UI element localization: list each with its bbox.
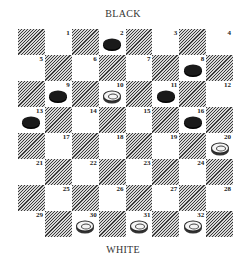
square-dark	[126, 29, 153, 55]
square-dark	[206, 107, 233, 133]
square-number: 17	[63, 134, 70, 141]
square-23[interactable]: 23	[126, 159, 153, 185]
square-18[interactable]: 18	[99, 133, 126, 159]
black-checker-piece[interactable]	[103, 38, 121, 49]
square-dark	[179, 29, 206, 55]
black-checker-piece[interactable]	[184, 64, 202, 75]
white-checker-piece[interactable]	[211, 142, 229, 153]
square-28[interactable]: 28	[206, 185, 233, 211]
square-dark	[45, 55, 72, 81]
square-number: 12	[224, 82, 231, 89]
square-dark	[206, 55, 233, 81]
white-checker-piece[interactable]	[184, 220, 202, 231]
square-dark	[18, 133, 45, 159]
square-11[interactable]: 11	[152, 81, 179, 107]
square-9[interactable]: 9	[45, 81, 72, 107]
square-number: 23	[143, 160, 150, 167]
square-22[interactable]: 22	[72, 159, 99, 185]
square-number: 16	[197, 108, 204, 115]
square-4[interactable]: 4	[206, 29, 233, 55]
square-27[interactable]: 27	[152, 185, 179, 211]
white-checker-piece[interactable]	[130, 220, 148, 231]
square-dark	[72, 185, 99, 211]
square-dark	[72, 29, 99, 55]
square-13[interactable]: 13	[18, 107, 45, 133]
square-1[interactable]: 1	[45, 29, 72, 55]
square-16[interactable]: 16	[179, 107, 206, 133]
square-25[interactable]: 25	[45, 185, 72, 211]
square-32[interactable]: 32	[179, 211, 206, 237]
white-checker-piece[interactable]	[76, 220, 94, 231]
square-number: 18	[117, 134, 124, 141]
square-dark	[126, 133, 153, 159]
square-dark	[179, 81, 206, 107]
square-10[interactable]: 10	[99, 81, 126, 107]
square-dark	[99, 55, 126, 81]
black-side-label: BLACK	[0, 8, 246, 19]
square-number: 20	[224, 134, 231, 141]
square-number: 9	[66, 82, 70, 89]
square-number: 28	[224, 186, 231, 193]
square-26[interactable]: 26	[99, 185, 126, 211]
black-checker-piece[interactable]	[157, 90, 175, 101]
white-side-label: WHITE	[0, 244, 246, 255]
square-dark	[179, 133, 206, 159]
square-20[interactable]: 20	[206, 133, 233, 159]
square-dark	[126, 185, 153, 211]
square-number: 21	[36, 160, 43, 167]
square-3[interactable]: 3	[152, 29, 179, 55]
square-number: 13	[36, 108, 43, 115]
square-dark	[206, 159, 233, 185]
square-15[interactable]: 15	[126, 107, 153, 133]
square-dark	[152, 211, 179, 237]
square-17[interactable]: 17	[45, 133, 72, 159]
square-number: 27	[170, 186, 177, 193]
black-checker-piece[interactable]	[184, 116, 202, 127]
square-number: 10	[117, 82, 124, 89]
square-2[interactable]: 2	[99, 29, 126, 55]
square-14[interactable]: 14	[72, 107, 99, 133]
square-21[interactable]: 21	[18, 159, 45, 185]
square-8[interactable]: 8	[179, 55, 206, 81]
square-number: 19	[170, 134, 177, 141]
square-number: 25	[63, 186, 70, 193]
square-dark	[18, 185, 45, 211]
black-checker-piece[interactable]	[49, 90, 67, 101]
square-number: 14	[90, 108, 97, 115]
square-12[interactable]: 12	[206, 81, 233, 107]
checkers-board: 1234567891011121314151617181920212223242…	[18, 29, 233, 237]
square-19[interactable]: 19	[152, 133, 179, 159]
square-dark	[179, 185, 206, 211]
square-dark	[152, 107, 179, 133]
square-30[interactable]: 30	[72, 211, 99, 237]
square-dark	[206, 211, 233, 237]
square-5[interactable]: 5	[18, 55, 45, 81]
square-number: 30	[90, 212, 97, 219]
square-number: 29	[36, 212, 43, 219]
square-dark	[72, 81, 99, 107]
square-29[interactable]: 29	[18, 211, 45, 237]
square-number: 15	[143, 108, 150, 115]
square-number: 31	[143, 212, 150, 219]
black-checker-piece[interactable]	[22, 116, 40, 127]
square-6[interactable]: 6	[72, 55, 99, 81]
square-number: 5	[39, 56, 43, 63]
square-dark	[99, 211, 126, 237]
square-number: 22	[90, 160, 97, 167]
white-checker-piece[interactable]	[103, 90, 121, 101]
square-number: 7	[147, 56, 151, 63]
square-number: 4	[228, 30, 232, 37]
square-dark	[126, 81, 153, 107]
square-dark	[99, 159, 126, 185]
square-dark	[18, 81, 45, 107]
square-number: 3	[174, 30, 178, 37]
square-24[interactable]: 24	[179, 159, 206, 185]
square-dark	[45, 107, 72, 133]
square-7[interactable]: 7	[126, 55, 153, 81]
square-dark	[72, 133, 99, 159]
square-number: 26	[117, 186, 124, 193]
square-31[interactable]: 31	[126, 211, 153, 237]
square-dark	[45, 211, 72, 237]
square-dark	[18, 29, 45, 55]
square-number: 24	[197, 160, 204, 167]
